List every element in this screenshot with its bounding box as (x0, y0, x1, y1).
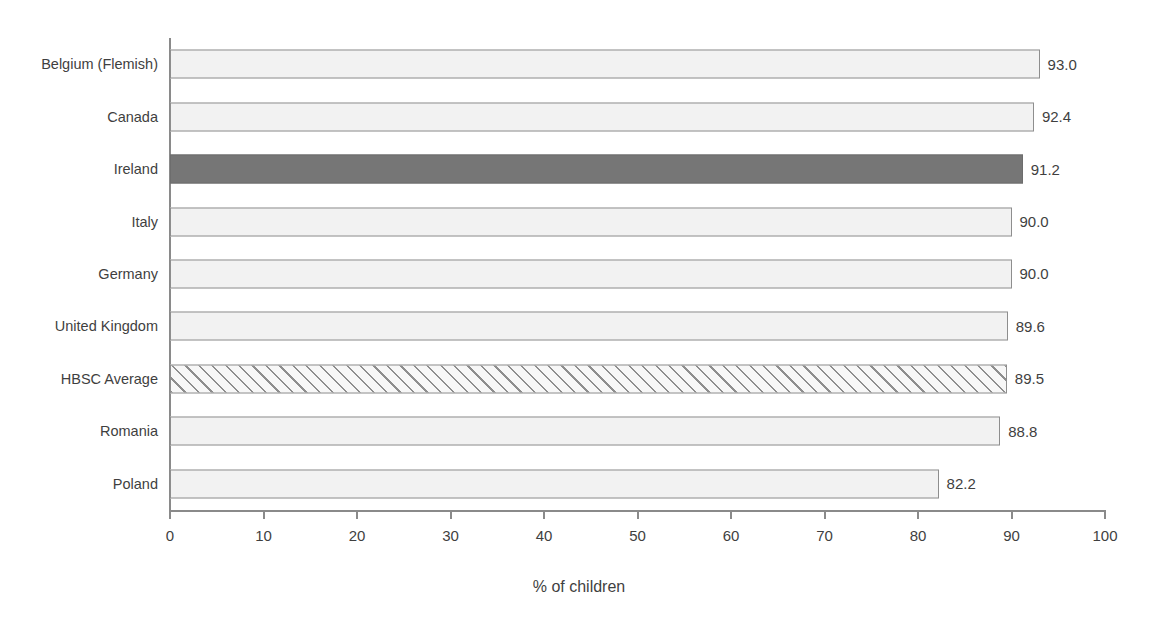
category-label: HBSC Average (61, 371, 158, 387)
bar-container: 88.8 (170, 417, 1105, 446)
chart-row: Ireland91.2 (170, 143, 1105, 195)
x-axis-tick (356, 510, 358, 519)
bar-value-label: 89.6 (1016, 318, 1045, 335)
bar-value-label: 90.0 (1020, 213, 1049, 230)
bar-chart: Belgium (Flemish)93.0Canada92.4Ireland91… (0, 0, 1158, 643)
category-label: Poland (113, 476, 158, 492)
x-axis-tick-label: 60 (723, 527, 740, 544)
bar-container: 89.6 (170, 312, 1105, 341)
bar-hbsc-average (170, 364, 1007, 393)
plot-area: Belgium (Flemish)93.0Canada92.4Ireland91… (170, 38, 1105, 510)
bar-value-label: 92.4 (1042, 108, 1071, 125)
chart-row: Germany90.0 (170, 248, 1105, 300)
x-axis-tick-label: 20 (349, 527, 366, 544)
bar-container: 92.4 (170, 102, 1105, 131)
x-axis-tick-label: 50 (629, 527, 646, 544)
x-axis-tick (637, 510, 639, 519)
bar-belgium-flemish (170, 50, 1040, 79)
bar-germany (170, 259, 1012, 288)
category-label: Romania (100, 423, 158, 439)
x-axis-tick (263, 510, 265, 519)
bar-value-label: 90.0 (1020, 265, 1049, 282)
x-axis-tick-label: 100 (1092, 527, 1117, 544)
chart-row: Canada92.4 (170, 90, 1105, 142)
bar-value-label: 82.2 (947, 475, 976, 492)
bar-ireland (170, 155, 1023, 184)
x-axis-tick (917, 510, 919, 519)
x-axis-tick (824, 510, 826, 519)
x-axis-tick (1104, 510, 1106, 519)
bar-container: 90.0 (170, 207, 1105, 236)
bar-poland (170, 469, 939, 498)
bar-value-label: 91.2 (1031, 161, 1060, 178)
x-axis-tick-label: 70 (816, 527, 833, 544)
chart-row: HBSC Average89.5 (170, 353, 1105, 405)
x-axis-tick-label: 80 (910, 527, 927, 544)
chart-row: United Kingdom89.6 (170, 300, 1105, 352)
bar-container: 89.5 (170, 364, 1105, 393)
category-label: United Kingdom (55, 318, 158, 334)
x-axis-tick-label: 30 (442, 527, 459, 544)
chart-row: Belgium (Flemish)93.0 (170, 38, 1105, 90)
bar-container: 93.0 (170, 50, 1105, 79)
bar-canada (170, 102, 1034, 131)
bar-italy (170, 207, 1012, 236)
category-label: Germany (98, 266, 158, 282)
chart-row: Poland82.2 (170, 458, 1105, 510)
bar-value-label: 93.0 (1048, 56, 1077, 73)
x-axis-tick (730, 510, 732, 519)
category-label: Canada (107, 109, 158, 125)
x-axis-tick (169, 510, 171, 519)
category-label: Italy (131, 214, 158, 230)
x-axis-tick-label: 10 (255, 527, 272, 544)
chart-row: Romania88.8 (170, 405, 1105, 457)
bar-container: 90.0 (170, 259, 1105, 288)
x-axis-tick-label: 90 (1003, 527, 1020, 544)
chart-row: Italy90.0 (170, 195, 1105, 247)
category-label: Belgium (Flemish) (41, 56, 158, 72)
category-label: Ireland (114, 161, 158, 177)
x-axis-tick-label: 0 (166, 527, 174, 544)
bar-united-kingdom (170, 312, 1008, 341)
bar-container: 82.2 (170, 469, 1105, 498)
x-axis-tick-label: 40 (536, 527, 553, 544)
bar-romania (170, 417, 1000, 446)
x-axis-tick (1011, 510, 1013, 519)
x-axis-tick (450, 510, 452, 519)
bar-value-label: 88.8 (1008, 423, 1037, 440)
bar-container: 91.2 (170, 155, 1105, 184)
x-axis-title: % of children (0, 578, 1158, 596)
bar-value-label: 89.5 (1015, 370, 1044, 387)
x-axis-tick (543, 510, 545, 519)
